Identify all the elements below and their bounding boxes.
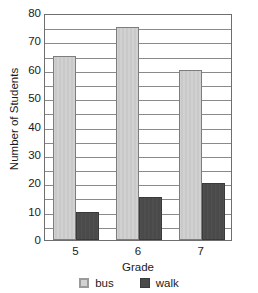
legend-item-bus: bus xyxy=(79,277,114,289)
y-axis-tick-label: 20 xyxy=(20,179,41,191)
legend-item-walk: walk xyxy=(140,277,179,289)
y-axis-tick-label: 80 xyxy=(20,8,41,20)
y-axis-tick-label: 0 xyxy=(20,235,41,247)
y-axis-tick-label: 30 xyxy=(20,150,41,162)
x-axis-tick-label: 5 xyxy=(72,245,78,257)
bar-walk-grade-5 xyxy=(76,212,99,240)
x-axis-tick-labels: 567 xyxy=(44,245,232,259)
y-axis-tick-label: 40 xyxy=(20,122,41,134)
x-axis-tick-label: 6 xyxy=(135,245,141,257)
legend-label-bus: bus xyxy=(95,277,114,289)
bars-layer xyxy=(45,15,231,240)
bar-bus-grade-7 xyxy=(179,70,202,240)
legend-label-walk: walk xyxy=(156,277,179,289)
bar-walk-grade-7 xyxy=(202,183,225,240)
chart-title xyxy=(0,0,258,1)
bar-bus-grade-6 xyxy=(116,27,139,240)
y-axis-tick-label: 50 xyxy=(20,93,41,105)
y-axis-tick-label: 70 xyxy=(20,37,41,49)
y-axis-title: Number of Students xyxy=(8,59,20,179)
x-axis-tick-label: 7 xyxy=(197,245,203,257)
legend-swatch-walk xyxy=(140,278,150,288)
chart-legend: buswalk xyxy=(0,277,258,289)
y-axis-tick-label: 60 xyxy=(20,65,41,77)
y-axis-tick-label: 10 xyxy=(20,207,41,219)
y-axis-tick-labels: 80706050403020100 xyxy=(20,14,41,241)
x-axis-title: Grade xyxy=(44,261,232,273)
plot-area xyxy=(44,14,232,241)
legend-swatch-bus xyxy=(79,278,89,288)
bar-bus-grade-5 xyxy=(53,56,76,240)
bar-walk-grade-6 xyxy=(139,197,162,240)
bar-chart: Number of Students 80706050403020100 567… xyxy=(0,0,258,293)
